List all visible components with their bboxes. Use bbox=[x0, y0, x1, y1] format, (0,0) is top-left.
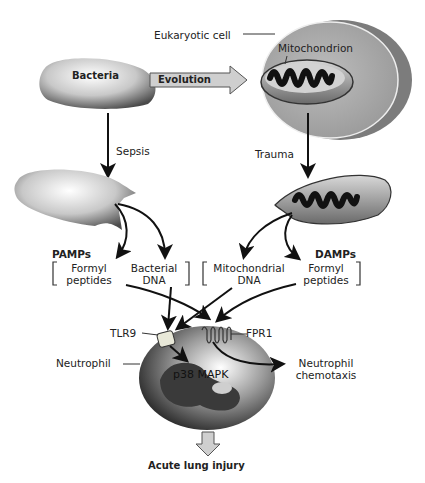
damp-mitochondrial-dna: Mitochondrial DNA bbox=[206, 262, 292, 286]
trauma-label: Trauma bbox=[255, 148, 294, 160]
eukaryotic-cell-label: Eukaryotic cell bbox=[154, 29, 231, 41]
arrow-mito-dna-to-tlr9 bbox=[178, 288, 232, 328]
pamp-formyl-l2: peptides bbox=[63, 274, 115, 286]
neutrophil-label: Neutrophil bbox=[56, 357, 111, 369]
diagram-canvas bbox=[0, 0, 425, 483]
arrow-to-bacterial-dna bbox=[118, 204, 165, 256]
pamp-formyl-l1: Formyl bbox=[63, 262, 115, 274]
pamps-title: PAMPs bbox=[52, 248, 91, 260]
damp-mito-l2: DNA bbox=[206, 274, 292, 286]
damp-formyl-l1: Formyl bbox=[298, 262, 354, 274]
pamp-bacterial-l1: Bacterial bbox=[124, 262, 184, 274]
fpr1-label: FPR1 bbox=[246, 327, 272, 339]
neutrophil-chemotaxis-label: Neutrophil chemotaxis bbox=[286, 357, 366, 381]
arrow-pamp-formyl-to-fpr1 bbox=[126, 285, 208, 318]
arrow-bacterial-dna-to-tlr9 bbox=[168, 287, 171, 327]
acute-lung-injury-label: Acute lung injury bbox=[148, 460, 245, 472]
damp-formyl-peptides: Formyl peptides bbox=[298, 262, 354, 286]
mitochondrion-label: Mitochondrion bbox=[278, 42, 353, 54]
damp-mito-l1: Mitochondrial bbox=[206, 262, 292, 274]
tlr9-label: TLR9 bbox=[110, 327, 136, 339]
chemotaxis-l1: Neutrophil bbox=[286, 357, 366, 369]
sepsis-label: Sepsis bbox=[116, 145, 150, 157]
evolution-label: Evolution bbox=[158, 74, 211, 86]
bacteria-label: Bacteria bbox=[72, 70, 119, 82]
pamp-bacterial-l2: DNA bbox=[124, 274, 184, 286]
ruptured-bacteria-shape bbox=[14, 170, 136, 230]
ruptured-mitochondrion-shape bbox=[275, 175, 391, 224]
chemotaxis-l2: chemotaxis bbox=[286, 369, 366, 381]
injury-arrow bbox=[196, 432, 220, 456]
bacteria-shape bbox=[39, 58, 155, 109]
pamp-formyl-peptides: Formyl peptides bbox=[63, 262, 115, 286]
p38-mapk-label: p38 MAPK bbox=[173, 369, 228, 382]
damp-formyl-l2: peptides bbox=[298, 274, 354, 286]
pamp-bacterial-dna: Bacterial DNA bbox=[124, 262, 184, 286]
damps-title: DAMPs bbox=[315, 248, 356, 260]
arrow-to-formyl-peptides-damp bbox=[285, 215, 298, 258]
